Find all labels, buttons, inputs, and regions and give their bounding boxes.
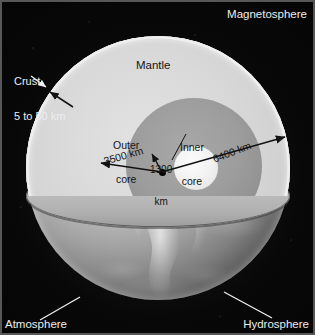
- label-hydrosphere: Hydrosphere: [243, 318, 309, 330]
- label-mantle: Mantle: [136, 59, 171, 71]
- label-magnetosphere: Magnetosphere: [227, 8, 307, 20]
- label-atmosphere: Atmosphere: [5, 318, 67, 330]
- label-1300-unit: km: [150, 197, 172, 208]
- label-inner-core-line1: Inner: [180, 142, 204, 153]
- label-crust-thickness: 5 to 50 km: [14, 111, 65, 123]
- label-inner-core-radius: 1300 km: [150, 143, 172, 229]
- label-crust: Crust 5 to 50 km: [14, 52, 65, 147]
- label-inner-core: Inner core: [180, 119, 204, 210]
- earth-structure-diagram: Magnetosphere Atmosphere Hydrosphere Cru…: [0, 0, 315, 335]
- label-inner-core-line2: core: [180, 176, 204, 187]
- label-crust-name: Crust: [14, 76, 65, 88]
- label-outer-core-line2: core: [113, 174, 139, 185]
- label-1300-value: 1300: [150, 165, 172, 176]
